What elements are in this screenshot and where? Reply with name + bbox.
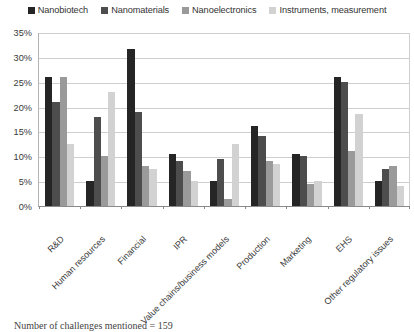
legend-item-nanomaterials: Nanomaterials	[101, 5, 169, 15]
bar-group	[39, 33, 80, 206]
bar	[334, 77, 341, 206]
bar	[127, 49, 134, 206]
y-axis-tick-label: 5%	[19, 177, 32, 187]
x-axis-tick	[369, 206, 370, 209]
bar	[224, 199, 231, 206]
bar	[135, 112, 142, 206]
bar-group	[80, 33, 121, 206]
y-axis-tick-label: 10%	[14, 152, 32, 162]
plot-area	[38, 33, 410, 207]
x-axis-tick	[80, 206, 81, 209]
y-axis-tick-label: 15%	[14, 127, 32, 137]
bar	[292, 154, 299, 206]
legend-label: Nanobiotech	[38, 5, 89, 15]
legend-swatch-icon	[28, 7, 35, 14]
bar-group	[121, 33, 162, 206]
x-axis-tick-label: Marketing	[278, 234, 313, 269]
bar	[348, 151, 355, 206]
bar	[45, 77, 52, 206]
x-axis-tick	[163, 206, 164, 209]
bar	[314, 181, 321, 206]
x-axis-tick	[204, 206, 205, 209]
x-axis-tick-label: Financial	[116, 234, 149, 267]
legend-label: Instruments, measurement	[279, 5, 386, 15]
legend-swatch-icon	[182, 7, 189, 14]
x-axis-tick-label: EHS	[334, 234, 354, 254]
legend-swatch-icon	[101, 7, 108, 14]
x-axis-tick-label: Other regulatory issues	[323, 234, 396, 307]
bar-group	[369, 33, 410, 206]
x-axis-tick	[286, 206, 287, 209]
bar	[191, 181, 198, 206]
bar-group	[328, 33, 369, 206]
bar	[300, 156, 307, 206]
bar	[251, 126, 258, 206]
x-axis-tick-label: Production	[234, 234, 271, 271]
plot-area-wrapper: 0%5%10%15%20%25%30%35% R&DHuman resource…	[0, 22, 414, 212]
bar	[169, 154, 176, 206]
x-axis-tick-label: Value chains/business models	[138, 234, 230, 326]
bar	[266, 161, 273, 206]
bar	[142, 166, 149, 206]
chart-legend: Nanobiotech Nanomaterials Nanoelectronic…	[0, 2, 414, 18]
legend-item-instruments-measurement: Instruments, measurement	[269, 5, 386, 15]
y-axis-tick-label: 25%	[14, 78, 32, 88]
x-axis-tick	[245, 206, 246, 209]
bar	[149, 169, 156, 206]
bar	[258, 136, 265, 206]
bar	[108, 92, 115, 206]
bar	[210, 181, 217, 206]
x-axis-tick-label: R&D	[45, 234, 66, 255]
y-axis-tick-label: 30%	[14, 53, 32, 63]
bar	[341, 82, 348, 206]
bar	[382, 169, 389, 206]
bar-group	[245, 33, 286, 206]
bar	[86, 181, 93, 206]
legend-item-nanobiotech: Nanobiotech	[28, 5, 89, 15]
bar-group	[163, 33, 204, 206]
bar	[355, 114, 362, 206]
x-axis-tick	[409, 206, 410, 209]
bar	[101, 156, 108, 206]
x-axis-tick	[328, 206, 329, 209]
bar	[232, 144, 239, 206]
bar	[397, 186, 404, 206]
x-axis-tick	[121, 206, 122, 209]
x-axis-tick-label: IPR	[172, 234, 190, 252]
x-axis-tick	[39, 206, 40, 209]
bar-groups	[39, 33, 410, 206]
legend-item-nanoelectronics: Nanoelectronics	[182, 5, 256, 15]
y-axis-tick-label: 35%	[14, 28, 32, 38]
bar	[307, 184, 314, 206]
bar	[176, 161, 183, 206]
y-axis-tick-label: 0%	[19, 202, 32, 212]
bar	[375, 181, 382, 206]
bar	[389, 166, 396, 206]
bar-group	[286, 33, 327, 206]
bar	[67, 144, 74, 206]
legend-label: Nanoelectronics	[192, 5, 256, 15]
bar	[273, 164, 280, 206]
y-axis-labels: 0%5%10%15%20%25%30%35%	[0, 22, 36, 212]
bar	[183, 171, 190, 206]
legend-swatch-icon	[269, 7, 276, 14]
x-axis-labels: R&DHuman resourcesFinancialIPRValue chai…	[38, 234, 410, 332]
legend-label: Nanomaterials	[111, 5, 169, 15]
chart-footnote: Number of challenges mentioned = 159	[14, 320, 173, 331]
bar	[52, 102, 59, 206]
bar-group	[204, 33, 245, 206]
bar	[60, 77, 67, 206]
bar	[217, 159, 224, 206]
y-axis-tick-label: 20%	[14, 103, 32, 113]
bar	[94, 117, 101, 206]
bar-chart: Nanobiotech Nanomaterials Nanoelectronic…	[0, 0, 414, 332]
